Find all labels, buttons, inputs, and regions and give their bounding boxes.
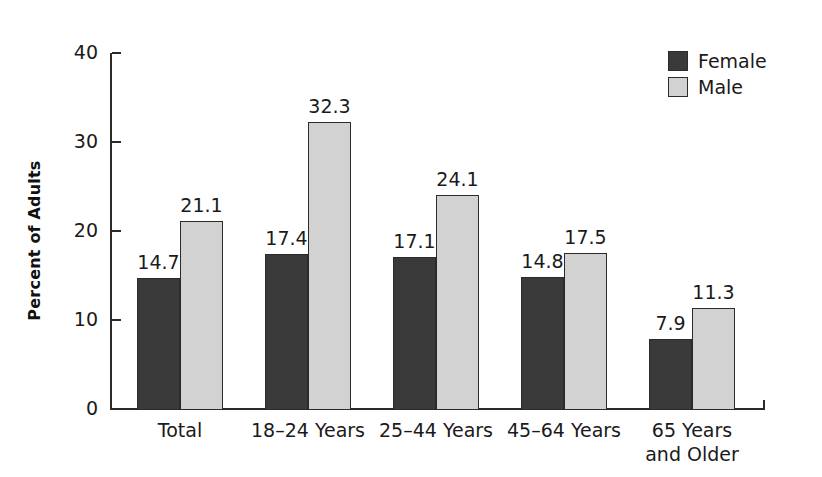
bar-value-label: 17.5 — [555, 228, 616, 247]
y-axis-tick — [112, 319, 121, 321]
bar-chart: 010203040 Percent of Adults 14.721.1Tota… — [0, 0, 822, 477]
bar-female — [265, 254, 308, 410]
y-axis-tick — [112, 141, 121, 143]
legend-item-female: Female — [668, 48, 767, 74]
legend: Female Male — [668, 48, 767, 100]
bar-female — [649, 339, 692, 410]
x-axis-right-cap — [763, 400, 765, 409]
legend-swatch-male-icon — [668, 77, 688, 97]
bar-female — [393, 257, 436, 410]
legend-label-male: Male — [698, 78, 743, 97]
bar-male — [436, 195, 479, 410]
bar-value-label: 32.3 — [299, 97, 360, 116]
y-axis-tick — [112, 52, 121, 54]
y-axis-tick — [112, 230, 121, 232]
bar-male — [564, 253, 607, 410]
y-axis-tick-label: 10 — [52, 310, 98, 329]
y-axis-title: Percent of Adults — [25, 141, 44, 341]
bar-male — [308, 122, 351, 410]
y-axis-tick-label: 30 — [52, 132, 98, 151]
y-axis-tick-label: 40 — [52, 43, 98, 62]
legend-label-female: Female — [698, 52, 767, 71]
y-axis-tick — [112, 408, 121, 410]
bar-value-label: 24.1 — [427, 170, 488, 189]
legend-swatch-female-icon — [668, 51, 688, 71]
bar-female — [521, 277, 564, 410]
legend-item-male: Male — [668, 74, 767, 100]
bar-male — [180, 221, 223, 410]
y-axis-tick-label: 0 — [52, 399, 98, 418]
bar-value-label: 21.1 — [171, 196, 232, 215]
bar-value-label: 11.3 — [683, 283, 744, 302]
x-axis-category-label: 65 Years and Older — [612, 418, 772, 466]
bar-male — [692, 308, 735, 410]
y-axis-tick-label: 20 — [52, 221, 98, 240]
bar-female — [137, 278, 180, 410]
